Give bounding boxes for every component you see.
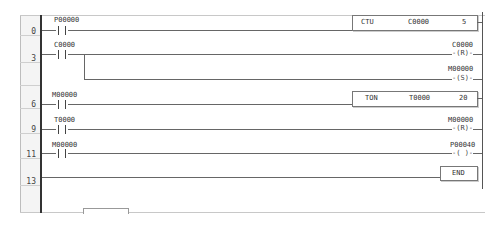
step-number: 6 xyxy=(20,100,36,109)
ctu-instruction-box[interactable]: CTU C0000 5 xyxy=(352,15,478,31)
wire xyxy=(68,104,352,105)
instruction-value: 20 xyxy=(459,94,467,102)
coil-label: C0000 xyxy=(452,41,473,49)
instruction-op: CTU xyxy=(361,18,374,26)
wire xyxy=(477,22,482,23)
instruction-operand: C0000 xyxy=(408,18,429,26)
instruction-op: TON xyxy=(365,94,378,102)
coil-label: M00000 xyxy=(448,116,473,124)
instruction-operand: T0000 xyxy=(409,94,430,102)
no-contact-icon[interactable] xyxy=(56,100,68,109)
no-contact-icon[interactable] xyxy=(56,149,68,158)
coil-label: M00000 xyxy=(448,65,473,73)
no-contact-icon[interactable] xyxy=(56,125,68,134)
wire xyxy=(42,30,56,31)
wire xyxy=(42,104,56,105)
wire xyxy=(42,54,56,55)
wire xyxy=(68,30,352,31)
right-power-rail xyxy=(482,12,483,189)
wire xyxy=(42,129,56,130)
wire xyxy=(84,79,482,80)
step-number: 3 xyxy=(20,54,36,63)
contact-label: C0000 xyxy=(54,41,75,49)
wire xyxy=(477,98,482,99)
contact-label: T0000 xyxy=(54,116,75,124)
wire xyxy=(42,153,56,154)
step-number: 0 xyxy=(20,27,36,36)
output-coil-icon[interactable]: -( )- xyxy=(452,149,473,157)
contact-label: P00000 xyxy=(54,16,79,24)
contact-label: M00000 xyxy=(52,141,77,149)
left-power-rail xyxy=(40,15,42,213)
end-instruction-box[interactable]: END xyxy=(440,166,478,181)
wire xyxy=(42,177,440,178)
coil-label: P00040 xyxy=(450,141,475,149)
reset-coil-icon[interactable]: -(R)- xyxy=(452,49,473,57)
instruction-value: 5 xyxy=(462,18,466,26)
sheet-tab[interactable] xyxy=(83,208,129,214)
reset-coil-icon[interactable]: -(R)- xyxy=(452,124,473,132)
gutter-divider xyxy=(20,85,40,86)
no-contact-icon[interactable] xyxy=(56,26,68,35)
step-number: 13 xyxy=(20,177,36,186)
ton-instruction-box[interactable]: TON T0000 20 xyxy=(352,91,478,107)
wire xyxy=(68,153,482,154)
no-contact-icon[interactable] xyxy=(56,50,68,59)
set-coil-icon[interactable]: -(S)- xyxy=(452,74,473,82)
branch-wire xyxy=(84,54,85,80)
step-number: 9 xyxy=(20,125,36,134)
instruction-op: END xyxy=(452,169,465,177)
contact-label: M00000 xyxy=(52,91,77,99)
wire xyxy=(68,129,482,130)
step-number: 11 xyxy=(20,150,36,159)
wire xyxy=(68,54,482,55)
